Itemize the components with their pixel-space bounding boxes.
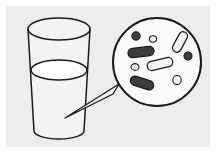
microbe-coccus-5 — [173, 75, 181, 84]
microbes-in-water-illustration — [0, 0, 216, 153]
microbe-coccus-3 — [184, 52, 192, 60]
glass-group — [28, 18, 90, 139]
liquid-surface — [31, 60, 87, 80]
microbe-coccus-2 — [149, 36, 156, 42]
glass-rim — [28, 18, 90, 40]
microbe-coccus-4 — [131, 64, 139, 71]
magnifier-group — [113, 18, 201, 106]
illustration-canvas: Magnified view of microorganisms in a gl… — [0, 0, 216, 153]
microbe-coccus-1 — [132, 32, 140, 40]
glass-body — [28, 29, 90, 139]
